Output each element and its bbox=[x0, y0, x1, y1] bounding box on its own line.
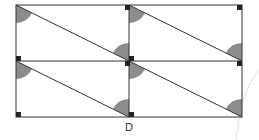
diagram-canvas bbox=[0, 0, 259, 140]
point-label-d: D bbox=[125, 121, 133, 133]
